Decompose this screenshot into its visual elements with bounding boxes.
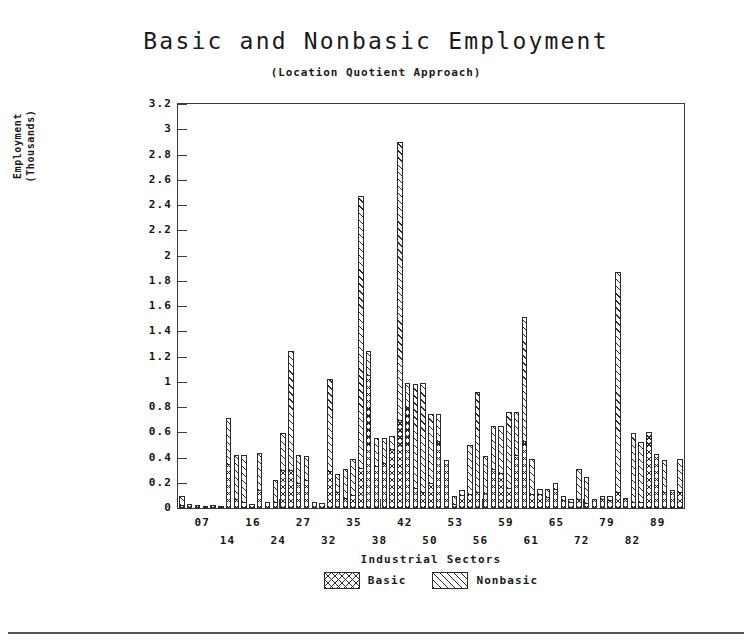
bar-column	[553, 104, 558, 508]
bar-segment-basic	[397, 420, 402, 508]
bar-segment-basic	[374, 466, 379, 508]
bar-column	[397, 104, 402, 508]
bar-column	[529, 104, 534, 508]
bar-segment-nonbasic	[397, 142, 402, 421]
chart-legend: Basic Nonbasic	[177, 572, 685, 589]
bar-segment-basic	[203, 506, 208, 508]
bar-segment-nonbasic	[358, 196, 363, 469]
bar-column	[436, 104, 441, 508]
bar-segment-basic	[615, 492, 620, 508]
bar-column	[312, 104, 317, 508]
bar-segment-nonbasic	[405, 383, 410, 408]
bar-segment-nonbasic	[607, 496, 612, 501]
bar-column	[234, 104, 239, 508]
bar-segment-nonbasic	[545, 489, 550, 498]
x-axis-tick-label: 27	[296, 516, 311, 529]
bar-segment-basic	[522, 441, 527, 508]
bar-column	[607, 104, 612, 508]
bar-column	[265, 104, 270, 508]
bar-column	[358, 104, 363, 508]
bar-segment-basic	[607, 500, 612, 508]
bar-column	[506, 104, 511, 508]
bar-segment-nonbasic	[335, 474, 340, 493]
bar-column	[459, 104, 464, 508]
y-axis-tick-label: 2.2	[149, 223, 172, 236]
legend-swatch-nonbasic-icon	[432, 572, 468, 589]
bar-segment-nonbasic	[179, 496, 184, 506]
bar-segment-basic	[459, 495, 464, 508]
bar-segment-nonbasic	[529, 459, 534, 496]
bar-column	[600, 104, 605, 508]
bar-segment-basic	[592, 499, 597, 508]
bar-column	[226, 104, 231, 508]
x-axis-tick-label: 35	[346, 516, 361, 529]
bar-segment-basic	[343, 498, 348, 508]
bar-segment-nonbasic	[491, 426, 496, 470]
bar-segment-basic	[436, 441, 441, 508]
bar-segment-basic	[187, 504, 192, 508]
bar-column	[662, 104, 667, 508]
bar-segment-basic	[327, 471, 332, 508]
bar-segment-nonbasic	[226, 418, 231, 465]
bar-segment-nonbasic	[327, 379, 332, 472]
bar-segment-basic	[467, 494, 472, 508]
x-axis-tick-label: 38	[372, 534, 387, 547]
bar-column	[374, 104, 379, 508]
bar-column	[483, 104, 488, 508]
bar-segment-nonbasic	[389, 436, 394, 450]
bar-segment-basic	[514, 455, 519, 508]
bar-segment-nonbasic	[459, 490, 464, 496]
bar-segment-nonbasic	[234, 455, 239, 500]
bar-segment-nonbasic	[584, 477, 589, 504]
x-axis-tick-label: 42	[397, 516, 412, 529]
x-axis-tick-label: 59	[498, 516, 513, 529]
x-axis-tick-label: 82	[625, 534, 640, 547]
bar-segment-nonbasic	[638, 442, 643, 503]
y-axis-tick-label: 1.2	[149, 350, 172, 363]
bar-segment-basic	[623, 498, 628, 508]
bar-segment-basic	[389, 449, 394, 508]
legend-label-nonbasic: Nonbasic	[476, 574, 538, 587]
legend-item-nonbasic: Nonbasic	[432, 572, 538, 589]
x-axis-tick-label: 14	[220, 534, 235, 547]
x-axis-tick-label: 79	[599, 516, 614, 529]
x-axis-tick-label: 61	[523, 534, 538, 547]
bar-column	[241, 104, 246, 508]
bar-column	[514, 104, 519, 508]
bar-segment-basic	[265, 502, 270, 508]
bar-segment-basic	[491, 469, 496, 508]
bar-column	[444, 104, 449, 508]
x-axis-tick-label: 72	[574, 534, 589, 547]
bar-segment-nonbasic	[304, 456, 309, 481]
bar-segment-basic	[576, 499, 581, 508]
bar-column	[187, 104, 192, 508]
bar-segment-basic	[545, 497, 550, 508]
bar-segment-basic	[280, 470, 285, 508]
bar-column	[405, 104, 410, 508]
bar-segment-nonbasic	[420, 383, 425, 493]
x-axis-tick-label: 32	[321, 534, 336, 547]
x-axis-tick-label: 50	[422, 534, 437, 547]
bar-column	[420, 104, 425, 508]
bar-segment-basic	[413, 488, 418, 508]
x-axis-tick-label: 89	[650, 516, 665, 529]
bar-segment-nonbasic	[553, 483, 558, 491]
y-axis-tick-label: 0.4	[149, 451, 172, 464]
bar-segment-nonbasic	[631, 433, 636, 502]
bar-segment-nonbasic	[498, 426, 503, 474]
bar-column	[413, 104, 418, 508]
bar-segment-nonbasic	[241, 455, 246, 503]
y-axis-tick-label: 2.6	[149, 173, 172, 186]
bar-segment-basic	[506, 488, 511, 508]
bar-segment-nonbasic	[366, 351, 371, 376]
bar-column	[638, 104, 643, 508]
bar-column	[350, 104, 355, 508]
bar-column	[670, 104, 675, 508]
bar-segment-nonbasic	[483, 456, 488, 494]
y-axis-tick-label: 2.8	[149, 148, 172, 161]
bar-column	[545, 104, 550, 508]
bar-column	[366, 104, 371, 508]
bar-column	[677, 104, 682, 508]
bar-column	[561, 104, 566, 508]
x-axis-title: Industrial Sectors	[177, 553, 685, 566]
